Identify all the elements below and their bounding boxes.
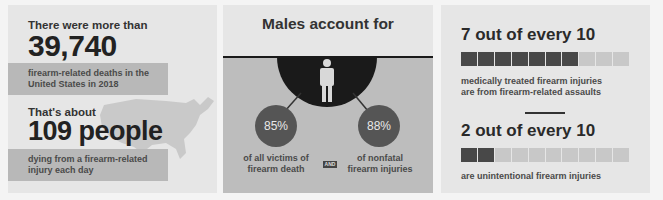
bar-block xyxy=(478,52,494,66)
bar-block xyxy=(512,52,528,66)
assault-caption-line2: are from firearm-related assaults xyxy=(461,87,602,98)
bar-block xyxy=(461,52,477,66)
daily-caption-line2: injury each day xyxy=(28,165,168,176)
male-death-pct: 85% xyxy=(255,105,297,147)
unintentional-bar xyxy=(461,148,629,162)
deaths-caption-line2: United States in 2018 xyxy=(28,79,168,90)
daily-caption-line1: dying from a firearm-related xyxy=(28,154,168,165)
assault-caption-line1: medically treated firearm injuries xyxy=(461,76,602,87)
assault-bar xyxy=(461,52,629,66)
injuries-panel: 7 out of every 10 medically treated fire… xyxy=(441,5,650,193)
bar-block xyxy=(596,148,612,162)
bar-block xyxy=(596,52,612,66)
male-death-caption-line1: of all victims of xyxy=(236,153,316,164)
bar-block xyxy=(529,52,545,66)
daily-count: 109 people xyxy=(28,116,163,147)
deaths-count: 39,740 xyxy=(28,29,117,63)
male-death-caption-line2: firearm death xyxy=(236,164,316,175)
deaths-panel: There were more than 39,740 firearm-rela… xyxy=(8,5,217,193)
bar-block xyxy=(579,52,595,66)
and-badge: AND xyxy=(323,161,337,168)
male-injury-caption-line2: firearm injuries xyxy=(340,164,420,175)
male-injury-caption: of nonfatal firearm injuries xyxy=(340,153,420,175)
bar-block xyxy=(546,148,562,162)
bar-block xyxy=(579,148,595,162)
bar-block xyxy=(461,148,477,162)
bar-block xyxy=(562,148,578,162)
male-death-caption: of all victims of firearm death xyxy=(236,153,316,175)
males-panel: Males account for 85% 88% of all victims… xyxy=(223,5,433,193)
unintentional-caption: are unintentional firearm injuries xyxy=(461,171,601,182)
deaths-caption: firearm-related deaths in the United Sta… xyxy=(8,63,168,95)
bar-block xyxy=(613,148,629,162)
male-injury-caption-line1: of nonfatal xyxy=(340,153,420,164)
bar-block xyxy=(546,52,562,66)
bar-block xyxy=(512,148,528,162)
bar-block xyxy=(562,52,578,66)
bar-block xyxy=(478,148,494,162)
bar-block xyxy=(613,52,629,66)
bar-block xyxy=(495,148,511,162)
daily-caption: dying from a firearm-related injury each… xyxy=(8,149,168,181)
assault-heading: 7 out of every 10 xyxy=(461,25,595,45)
bar-block xyxy=(529,148,545,162)
assault-caption: medically treated firearm injuries are f… xyxy=(461,76,602,98)
deaths-caption-line1: firearm-related deaths in the xyxy=(28,68,168,79)
male-injury-pct: 88% xyxy=(358,105,400,147)
unintentional-heading: 2 out of every 10 xyxy=(461,121,595,141)
divider xyxy=(525,112,565,114)
bar-block xyxy=(495,52,511,66)
